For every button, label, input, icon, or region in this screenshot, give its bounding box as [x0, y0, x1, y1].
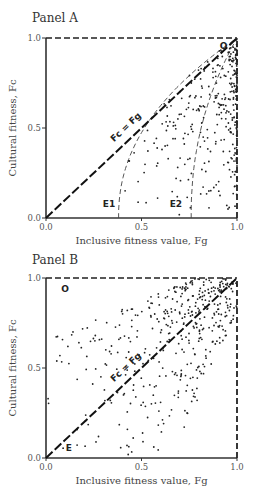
data-point	[233, 315, 235, 317]
data-point	[236, 306, 238, 308]
data-point	[192, 109, 194, 111]
data-point	[180, 113, 182, 115]
data-point	[226, 315, 228, 317]
data-point	[215, 75, 217, 77]
data-point	[205, 299, 207, 301]
data-point	[149, 384, 151, 386]
data-point	[218, 190, 220, 192]
x-tick-label: 1.0	[230, 462, 244, 472]
data-point	[158, 361, 160, 363]
data-point	[222, 151, 224, 153]
data-point	[215, 141, 217, 143]
data-point	[235, 63, 237, 65]
data-point	[204, 140, 206, 142]
data-point	[235, 171, 237, 173]
data-point	[231, 86, 233, 88]
data-point	[225, 296, 227, 298]
data-point	[232, 104, 234, 106]
data-point	[208, 207, 210, 209]
data-point	[163, 311, 165, 313]
data-point	[161, 123, 163, 125]
data-point	[93, 338, 95, 340]
data-point	[145, 202, 147, 204]
data-point	[185, 283, 187, 285]
data-point	[192, 284, 194, 286]
data-point	[182, 286, 184, 288]
data-point	[235, 88, 237, 90]
data-point	[201, 338, 203, 340]
data-point	[160, 332, 162, 334]
data-point	[184, 163, 186, 165]
data-point	[216, 97, 218, 99]
data-point	[215, 143, 217, 145]
data-point	[192, 389, 194, 391]
x-tick-label: 0.5	[135, 222, 149, 232]
data-point	[230, 157, 232, 159]
data-point	[133, 152, 135, 154]
data-point	[225, 335, 227, 337]
data-point	[167, 125, 169, 127]
data-point	[175, 178, 177, 180]
data-point	[178, 343, 180, 345]
data-point	[181, 293, 183, 295]
data-point	[186, 108, 188, 110]
data-point	[61, 361, 63, 363]
data-point	[217, 64, 219, 66]
data-point	[218, 103, 220, 105]
data-point	[190, 362, 192, 364]
y-tick-label: 1.0	[27, 33, 41, 43]
data-point	[188, 340, 190, 342]
data-point	[95, 441, 97, 443]
data-point	[198, 69, 200, 71]
annotation-o: O	[61, 284, 69, 294]
data-point	[230, 320, 232, 322]
data-point	[208, 86, 210, 88]
data-point	[220, 139, 222, 141]
data-point	[221, 325, 223, 327]
data-point	[209, 94, 211, 96]
data-point	[183, 138, 185, 140]
data-point	[232, 74, 234, 76]
data-point	[232, 318, 234, 320]
data-point	[219, 195, 221, 197]
data-point	[115, 326, 117, 328]
data-point	[220, 296, 222, 298]
data-point	[111, 345, 113, 347]
data-point	[220, 112, 222, 114]
data-point	[62, 339, 64, 341]
data-point	[104, 389, 106, 391]
panel-a: Panel A0.00.51.00.00.51.0Inclusive fitne…	[7, 11, 244, 246]
data-point	[218, 181, 220, 183]
data-point	[200, 324, 202, 326]
data-point	[224, 98, 226, 100]
data-point	[68, 363, 70, 365]
data-point	[150, 296, 152, 298]
data-point	[87, 424, 89, 426]
data-point	[137, 314, 139, 316]
data-point	[233, 154, 235, 156]
reference-line-label: Fc = Fg	[109, 350, 143, 383]
data-point	[189, 158, 191, 160]
data-point	[190, 315, 192, 317]
data-point	[201, 85, 203, 87]
data-point	[131, 308, 133, 310]
data-point	[148, 307, 150, 309]
data-point	[232, 133, 234, 135]
data-point	[231, 119, 233, 121]
data-point	[192, 376, 194, 378]
data-point	[199, 371, 201, 373]
reference-line-fc-equals-fg	[46, 278, 237, 458]
data-point	[178, 390, 180, 392]
data-point	[195, 322, 197, 324]
data-point	[143, 386, 145, 388]
data-point	[231, 66, 233, 68]
data-point	[212, 317, 214, 319]
data-point	[219, 342, 221, 344]
data-point	[76, 444, 78, 446]
data-point	[177, 392, 179, 394]
data-point	[231, 117, 233, 119]
data-point	[236, 185, 238, 187]
data-point	[236, 98, 238, 100]
data-point	[196, 327, 198, 329]
data-point	[99, 339, 101, 341]
